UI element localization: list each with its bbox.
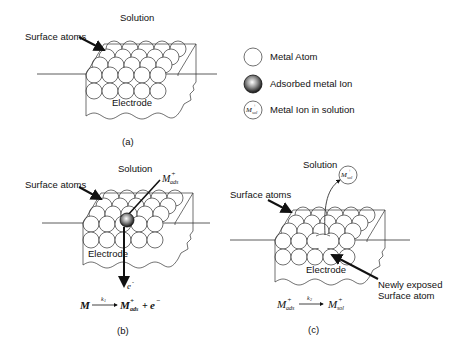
caption-c: (c) — [308, 324, 319, 335]
metal-atom-icon — [244, 48, 262, 66]
panel-a: Solution Surface atoms Electrode (a) — [25, 12, 217, 147]
newly-exposed-label-1: Newly exposed — [378, 279, 442, 290]
solution-label: Solution — [118, 163, 152, 174]
legend-label: Metal Ion in solution — [270, 104, 355, 115]
legend-label: Metal Atom — [270, 51, 318, 62]
legend-label: Adsorbed metal Ion — [270, 78, 352, 89]
electron-sup: - — [132, 279, 134, 285]
eq-plus: + — [142, 300, 148, 311]
surface-atoms-label: Surface atoms — [25, 179, 86, 190]
eq-rate-sub: 1 — [104, 298, 106, 303]
equation-c: M + ads k 2 M + sol — [276, 295, 344, 311]
surface-atoms-label: Surface atoms — [230, 189, 291, 200]
eq-rate-sub: 2 — [310, 297, 312, 302]
legend-item-adsorbed-ion: Adsorbed metal Ion — [244, 75, 352, 93]
surface-atoms-arrow — [79, 187, 101, 199]
equation-b: M k 1 M + ads + e − — [79, 296, 160, 312]
surface-atoms-label: Surface atoms — [25, 31, 86, 42]
solution-label: Solution — [120, 12, 154, 23]
electrode-dissolution-diagram: Solution Surface atoms Electrode (a) Met… — [0, 0, 452, 353]
ion-symbol-sup: + — [348, 168, 351, 173]
eq-electron-sup: − — [156, 297, 160, 305]
electrode-label: Electrode — [88, 248, 128, 259]
electrode-label: Electrode — [112, 97, 152, 108]
eq-rhs-sup: + — [338, 296, 343, 304]
ion-symbol-sub: sol — [347, 175, 353, 180]
eq-rhs-sub: ads — [130, 306, 139, 312]
solution-label: Solution — [303, 159, 337, 170]
ion-symbol-sup: + — [253, 103, 256, 108]
eq-lhs: M — [79, 299, 91, 311]
legend: Metal Atom Adsorbed metal Ion M + sol Me… — [244, 48, 355, 119]
legend-item-solution-ion: M + sol Metal Ion in solution — [244, 101, 355, 119]
eq-rhs-sub: sol — [337, 305, 344, 311]
panel-b: Solution Surface atoms M + ads e - Elect… — [25, 163, 210, 336]
legend-item-metal-atom: Metal Atom — [244, 48, 318, 66]
electrode-label: Electrode — [306, 264, 346, 275]
vacancy-site — [315, 233, 332, 250]
eq-lhs-sup: + — [287, 296, 292, 304]
adsorbed-ion-icon — [120, 213, 134, 227]
eq-lhs-sub: ads — [286, 305, 295, 311]
ion-label-sup: + — [171, 170, 176, 178]
newly-exposed-label-2: Surface atom — [378, 290, 435, 301]
ion-label-sub: ads — [170, 179, 179, 185]
surface-atoms-arrow — [268, 200, 291, 212]
adsorbed-ion-icon — [244, 75, 262, 93]
eq-rhs-sup: + — [130, 297, 134, 305]
electron-label: e — [127, 281, 131, 291]
eq-electron: e — [150, 299, 155, 311]
ion-symbol-sub: sol — [252, 110, 258, 115]
caption-a: (a) — [122, 136, 134, 147]
caption-b: (b) — [117, 325, 129, 336]
panel-c: Solution Surface atoms M + sol Electrode… — [230, 159, 442, 335]
surface-atoms-arrow — [79, 37, 104, 50]
